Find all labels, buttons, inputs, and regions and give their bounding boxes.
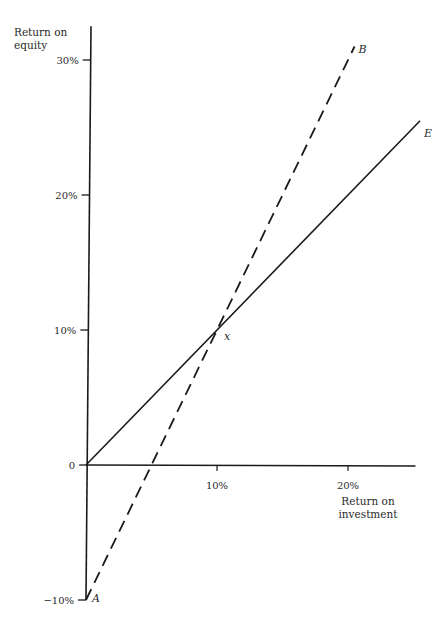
y-ticks: 30%20%10%0−10% [43, 55, 90, 606]
y-tick-label: −10% [43, 595, 74, 606]
series-line-E [86, 121, 420, 465]
y-axis [86, 26, 91, 600]
chart: 30%20%10%0−10% 10%20% EBAx Return on equ… [0, 0, 439, 619]
series: EBAx [86, 43, 432, 606]
x-axis [86, 465, 416, 466]
labels: Return on equity Return on investment [14, 26, 398, 520]
series-end-label: E [423, 127, 432, 140]
x-axis-title-line-1: Return on [341, 495, 395, 507]
x-tick-label: 10% [206, 480, 228, 491]
x-axis-title-line-2: investment [338, 508, 398, 520]
series-end-label: B [358, 43, 367, 56]
y-axis-title-line-2: equity [14, 39, 47, 51]
series-start-label: A [91, 592, 100, 605]
y-tick-label: 10% [54, 325, 76, 336]
intersection-label: x [224, 330, 231, 343]
x-tick-label: 20% [337, 480, 359, 491]
y-tick-label: 20% [55, 190, 77, 201]
x-ticks: 10%20% [206, 465, 359, 491]
series-line-B [86, 47, 355, 601]
y-axis-title-line-1: Return on [14, 26, 68, 38]
y-tick-label: 0 [69, 460, 75, 471]
y-tick-label: 30% [56, 55, 78, 66]
